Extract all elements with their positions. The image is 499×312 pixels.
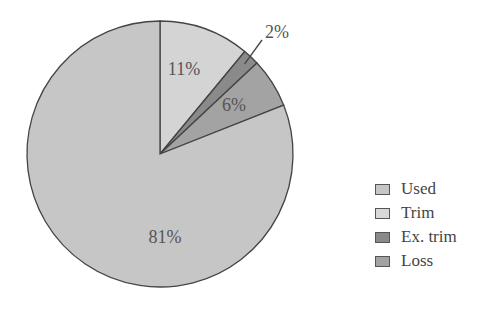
slice-label: 2% <box>265 22 289 42</box>
legend-label: Used <box>401 179 436 199</box>
legend-swatch-ex-trim <box>375 232 390 243</box>
slice-label: 6% <box>222 95 246 115</box>
legend-item-used: Used <box>375 177 457 201</box>
legend-label: Trim <box>401 203 434 223</box>
legend-item-loss: Loss <box>375 249 457 273</box>
slice-label: 11% <box>168 59 200 79</box>
legend: Used Trim Ex. trim Loss <box>375 177 457 273</box>
legend-label: Ex. trim <box>401 227 457 247</box>
legend-swatch-loss <box>375 256 390 267</box>
legend-label: Loss <box>401 251 433 271</box>
slice-label: 81% <box>149 227 182 247</box>
legend-swatch-trim <box>375 208 390 219</box>
legend-item-ex-trim: Ex. trim <box>375 225 457 249</box>
legend-item-trim: Trim <box>375 201 457 225</box>
legend-swatch-used <box>375 184 390 195</box>
